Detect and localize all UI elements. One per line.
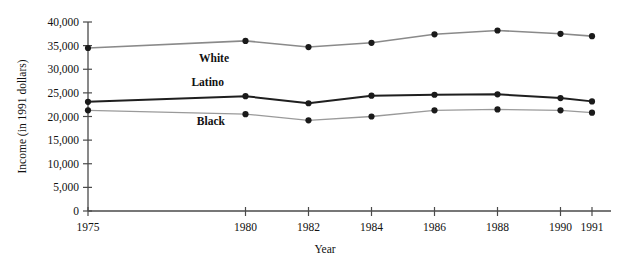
data-point-latino (242, 93, 248, 99)
income-by-race-line-chart: 05,00010,00015,00020,00025,00030,00035,0… (0, 0, 619, 271)
x-axis-tick-label: 1991 (581, 221, 604, 233)
y-axis-tick-label: 5,000 (53, 181, 79, 194)
data-point-white (305, 44, 311, 50)
x-axis-tick-label: 1990 (549, 221, 572, 233)
series-label-white: White (199, 52, 229, 64)
y-axis-tick-label: 0 (73, 205, 79, 217)
y-axis-tick-label: 30,000 (47, 63, 79, 76)
y-axis-tick-label: 20,000 (47, 111, 79, 124)
series-label-latino: Latino (191, 76, 224, 88)
chart-plot-area: 05,00010,00015,00020,00025,00030,00035,0… (0, 0, 619, 271)
data-point-latino (557, 95, 563, 101)
data-point-latino (494, 91, 500, 97)
data-point-black (431, 107, 437, 113)
data-point-white (368, 40, 374, 46)
data-point-white (494, 27, 500, 33)
data-point-latino (589, 98, 595, 104)
data-point-black (242, 111, 248, 117)
series-line-white (88, 31, 592, 48)
data-point-latino (368, 93, 374, 99)
data-point-black (85, 107, 91, 113)
y-axis-tick-label: 15,000 (47, 134, 79, 147)
data-point-white (431, 31, 437, 37)
data-point-black (557, 107, 563, 113)
data-point-black (368, 113, 374, 119)
x-axis-tick-label: 1980 (234, 221, 257, 233)
y-axis-tick-label: 40,000 (47, 16, 79, 29)
x-axis-title: Year (314, 243, 335, 255)
y-axis-tick-label: 25,000 (47, 87, 79, 100)
x-axis-tick-label: 1982 (297, 221, 320, 233)
series-line-black (88, 109, 592, 120)
data-point-black (589, 110, 595, 116)
data-point-latino (85, 99, 91, 105)
data-point-black (305, 117, 311, 123)
series-layer (85, 27, 595, 123)
x-axis-tick-label: 1986 (423, 221, 446, 233)
data-point-latino (305, 100, 311, 106)
series-label-black: Black (197, 115, 226, 127)
y-axis-tick-label: 10,000 (47, 158, 79, 171)
data-point-white (85, 45, 91, 51)
data-point-latino (431, 92, 437, 98)
axes-layer: 05,00010,00015,00020,00025,00030,00035,0… (47, 16, 611, 233)
data-point-white (242, 38, 248, 44)
series-labels-layer: WhiteLatinoBlack (191, 52, 229, 128)
y-axis-title: Income (in 1991 dollars) (16, 59, 29, 173)
x-axis-tick-label: 1975 (77, 221, 100, 233)
data-point-black (494, 106, 500, 112)
series-line-latino (88, 94, 592, 103)
data-point-white (557, 31, 563, 37)
x-axis-tick-label: 1988 (486, 221, 509, 233)
y-axis-tick-label: 35,000 (47, 40, 79, 53)
data-point-white (589, 33, 595, 39)
x-axis-tick-label: 1984 (360, 221, 383, 233)
